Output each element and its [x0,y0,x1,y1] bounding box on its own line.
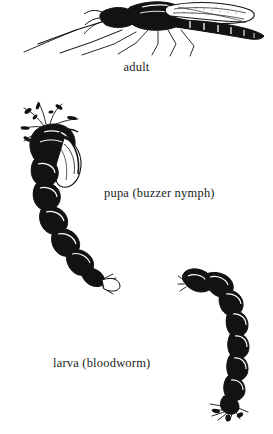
caption-larva: larva (bloodworm) [53,356,150,371]
caption-pupa: pupa (buzzer nymph) [104,186,215,201]
illustration-plate: adult [0,0,273,434]
adult-midge-illustration [18,0,266,56]
larva-illustration [178,262,262,420]
caption-adult: adult [0,60,273,75]
